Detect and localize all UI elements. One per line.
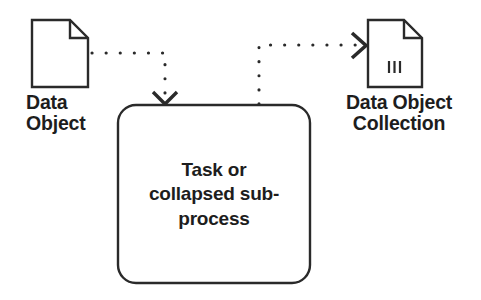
data-input-association-edge[interactable] bbox=[92, 53, 177, 104]
data-object-body bbox=[32, 20, 88, 87]
diagram-canvas: Data Object Data Object Collection Task … bbox=[0, 0, 481, 300]
data-input-association-line bbox=[92, 53, 165, 96]
task-label: Task or collapsed sub- process bbox=[120, 158, 308, 231]
data-object-collection-shape[interactable] bbox=[368, 20, 422, 87]
data-object-shape[interactable] bbox=[32, 20, 88, 87]
bpmn-diagram bbox=[0, 0, 481, 300]
data-object-collection-body bbox=[368, 20, 422, 87]
data-object-label: Data Object bbox=[26, 92, 85, 134]
data-object-collection-label: Data Object Collection bbox=[320, 92, 478, 134]
